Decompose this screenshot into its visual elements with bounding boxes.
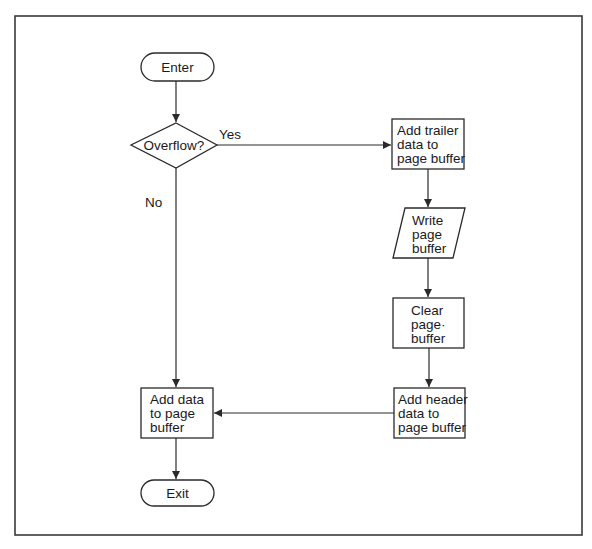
node-enter: Enter [141,53,214,81]
node-label-line: page buffer [398,420,467,435]
node-label-line: data to [398,406,439,421]
node-label: Exit [166,486,189,501]
node-label: Overflow? [144,138,205,153]
node-label-line: buffer [411,331,446,346]
node-add-trailer: Add trailer data to page buffer [392,119,466,169]
node-label-line: Add trailer [397,123,459,138]
node-label-line: page· [411,317,446,332]
node-label-line: page [412,227,442,242]
node-label-line: Add data [150,392,205,407]
node-clear-page: Clear page· buffer [393,298,464,348]
node-write-page: Write page buffer [393,208,465,258]
node-exit: Exit [141,480,214,506]
node-label-line: buffer [150,420,185,435]
node-label-line: data to [397,137,438,152]
node-label-line: to page [150,406,195,421]
diagram-frame [15,16,582,535]
node-label-line: Write [412,213,443,228]
node-add-header: Add header data to page buffer [394,388,468,438]
node-label-line: Clear [411,303,444,318]
node-overflow-decision: Overflow? [131,123,217,168]
edge-label-no: No [145,195,162,210]
edge-label-yes: Yes [219,127,241,142]
node-label-line: page buffer [397,151,466,166]
node-add-data: Add data to page buffer [141,388,213,438]
node-label-line: Add header [398,392,468,407]
node-label: Enter [161,60,194,75]
flowchart-diagram: Enter Overflow? Yes No Add trailer data … [0,0,592,549]
node-label-line: buffer [412,241,447,256]
